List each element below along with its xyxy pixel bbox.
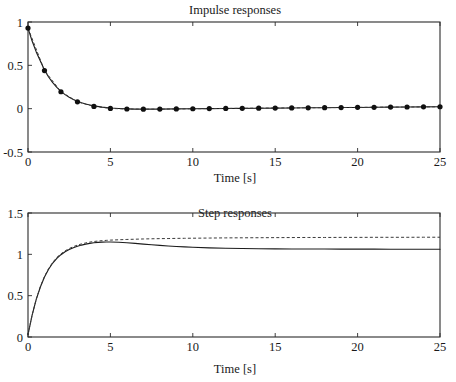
impulse-responses-panel: Impulse responses 0510152025-0.500.51 Ti… — [0, 0, 456, 191]
step-y-tick-label: 0.5 — [7, 289, 23, 303]
impulse-series-1-marker — [91, 104, 96, 109]
step-x-tick-label: 0 — [25, 340, 31, 354]
impulse-series-1-marker — [75, 99, 80, 104]
step-series-group — [28, 237, 440, 334]
step-plot-box — [28, 213, 440, 337]
impulse-series-1-marker — [124, 106, 129, 111]
step-x-tick-label: 10 — [187, 340, 200, 354]
impulse-plot-box — [28, 22, 440, 152]
impulse-responses-chart: Impulse responses 0510152025-0.500.51 Ti… — [0, 0, 456, 191]
impulse-series-0-line — [28, 28, 440, 109]
impulse-series-1-marker — [240, 106, 245, 111]
step-x-tick-label: 5 — [107, 340, 113, 354]
impulse-series-1-marker — [141, 107, 146, 112]
step-series-1-line — [28, 237, 440, 334]
step-responses-chart: Step responses 051015202500.511.5 Time [… — [0, 191, 456, 382]
impulse-x-tick-label: 0 — [25, 155, 31, 169]
impulse-series-1-marker — [256, 106, 261, 111]
impulse-series-1-marker — [273, 105, 278, 110]
impulse-series-1-marker — [223, 106, 228, 111]
impulse-y-tick-label: -0.5 — [3, 146, 23, 160]
impulse-series-1-marker — [421, 104, 426, 109]
impulse-y-tick-label: 0.5 — [7, 59, 23, 73]
impulse-axes: 0510152025-0.500.51 — [3, 16, 446, 170]
impulse-series-1-marker — [339, 105, 344, 110]
impulse-series-group — [25, 25, 442, 111]
step-axes: 051015202500.511.5 — [7, 207, 446, 355]
impulse-x-tick-label: 5 — [107, 155, 113, 169]
impulse-series-1-marker — [289, 105, 294, 110]
step-x-tick-label: 15 — [269, 340, 282, 354]
impulse-chart-title: Impulse responses — [189, 3, 281, 17]
impulse-series-1-marker — [174, 106, 179, 111]
step-y-tick-label: 0 — [17, 331, 23, 345]
step-y-tick-label: 1 — [17, 248, 23, 262]
impulse-y-tick-label: 0 — [17, 102, 23, 116]
impulse-series-1-marker — [42, 68, 47, 73]
impulse-series-1-marker — [322, 105, 327, 110]
impulse-series-1-line — [28, 28, 440, 109]
impulse-series-1-marker — [207, 106, 212, 111]
impulse-x-tick-label: 10 — [187, 155, 200, 169]
impulse-series-1-marker — [355, 105, 360, 110]
impulse-series-1-marker — [404, 104, 409, 109]
impulse-series-1-marker — [108, 106, 113, 111]
step-x-tick-label: 20 — [351, 340, 364, 354]
impulse-series-1-marker — [437, 104, 442, 109]
impulse-series-1-marker — [157, 107, 162, 112]
impulse-x-tick-label: 15 — [269, 155, 282, 169]
impulse-series-1-marker — [190, 106, 195, 111]
step-x-axis-label: Time [s] — [214, 362, 256, 376]
impulse-series-1-marker — [388, 105, 393, 110]
impulse-series-1-marker — [25, 25, 30, 30]
step-series-0-line — [28, 242, 440, 335]
impulse-x-axis-label: Time [s] — [214, 171, 256, 185]
step-x-tick-label: 25 — [434, 340, 447, 354]
impulse-series-1-marker — [371, 105, 376, 110]
step-y-tick-label: 1.5 — [7, 207, 23, 221]
step-responses-panel: Step responses 051015202500.511.5 Time [… — [0, 191, 456, 382]
impulse-x-tick-label: 20 — [351, 155, 364, 169]
impulse-series-1-marker — [306, 105, 311, 110]
impulse-series-1-marker — [58, 89, 63, 94]
impulse-y-tick-label: 1 — [17, 16, 23, 30]
impulse-x-tick-label: 25 — [434, 155, 447, 169]
figure-canvas: Impulse responses 0510152025-0.500.51 Ti… — [0, 0, 456, 382]
